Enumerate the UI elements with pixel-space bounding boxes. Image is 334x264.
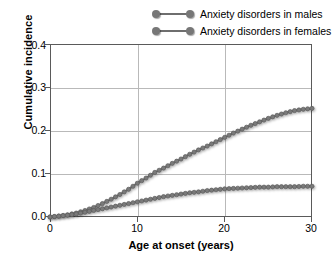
legend-label-males: Anxiety disorders in males — [200, 8, 323, 20]
y-tick-label-0.1: 0.1 — [14, 167, 46, 179]
x-axis-title: Age at onset (years) — [50, 239, 312, 251]
chart-legend: Anxiety disorders in males Anxiety disor… — [152, 6, 334, 40]
gridline-x-20 — [225, 45, 226, 216]
x-tick-label-20: 20 — [212, 222, 236, 234]
legend-item-males: Anxiety disorders in males — [152, 6, 334, 22]
gridline-y-0.2 — [51, 131, 311, 132]
gridline-y-0.3 — [51, 88, 311, 89]
legend-marker-males-icon — [152, 8, 194, 20]
x-tick-label-0: 0 — [38, 222, 62, 234]
y-axis-title: Cumulative incidence — [22, 0, 34, 152]
x-tick-label-10: 10 — [125, 222, 149, 234]
y-tick-label-0.0: 0.0 — [14, 210, 46, 222]
legend-label-females: Anxiety disorders in females — [200, 25, 331, 37]
legend-marker-females-icon — [152, 25, 194, 37]
chart-figure: Anxiety disorders in males Anxiety disor… — [0, 0, 334, 264]
x-tick-label-30: 30 — [299, 222, 323, 234]
gridline-y-0.1 — [51, 174, 311, 175]
legend-item-females: Anxiety disorders in females — [152, 23, 334, 39]
plot-area — [50, 44, 312, 217]
gridline-x-10 — [138, 45, 139, 216]
